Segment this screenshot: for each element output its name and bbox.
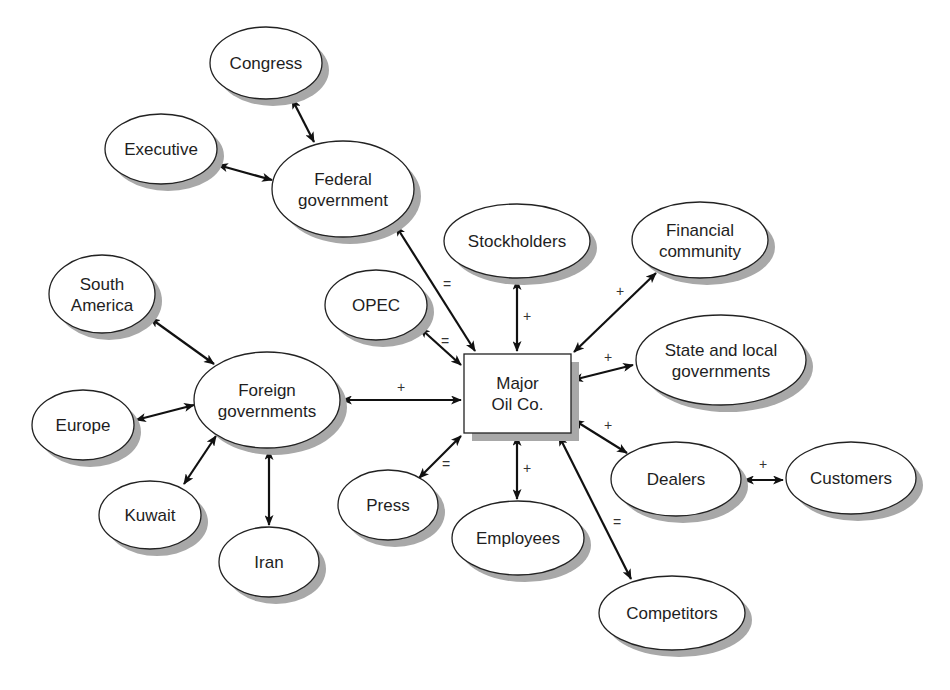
node-label: Major [496,374,539,393]
node-executive: Executive [105,114,217,184]
edge-label-major-competitors: = [613,514,621,530]
node-iran: Iran [219,527,319,597]
node-label: Executive [124,140,198,159]
edge-label-foreign-major: + [397,379,405,395]
ellipse-shape [49,255,155,333]
node-label: Foreign [238,381,296,400]
edge-label-financial-major: + [616,283,624,299]
ellipse-shape [194,352,340,448]
node-label: State and local [665,341,777,360]
node-press: Press [338,470,438,540]
node-dealers: Dealers [611,442,741,516]
node-label: government [298,191,388,210]
node-federal: Federalgovernment [272,141,414,237]
node-label: America [71,296,134,315]
edge-executive-federal [218,165,272,180]
node-label: Competitors [626,604,718,623]
node-label: Congress [230,54,303,73]
node-label: South [80,275,124,294]
node-label: OPEC [352,296,400,315]
edge-label-major-dealers: + [604,417,612,433]
rect-shape [464,354,571,433]
node-label: Press [366,496,409,515]
node-label: Iran [254,553,283,572]
edge-kuwait-foreign [184,436,216,484]
edge-label-federal-major: = [443,276,451,292]
edge-state-major [573,365,633,380]
node-congress: Congress [210,27,322,99]
node-opec: OPEC [325,270,427,340]
node-label: governments [218,402,316,421]
edge-southam-foreign [150,318,214,364]
node-customers: Customers [786,442,916,514]
stakeholder-diagram: CongressExecutiveFederalgovernmentStockh… [0,0,950,690]
ellipse-shape [272,141,414,237]
edge-label-dealers-customers: + [759,456,767,472]
ellipse-shape [636,315,806,405]
node-europe: Europe [32,390,134,460]
node-label: governments [672,362,770,381]
node-label: Dealers [647,470,706,489]
node-state: State and localgovernments [636,315,806,405]
edge-label-state-major: + [604,349,612,365]
node-label: Employees [476,529,560,548]
node-label: Oil Co. [492,395,544,414]
edge-label-major-employees: + [523,460,531,476]
node-label: Europe [56,416,111,435]
node-stockholders: Stockholders [444,204,590,278]
node-label: Federal [314,170,372,189]
edge-press-major [419,436,461,478]
ellipse-shape [632,202,768,278]
edge-label-opec-major: = [441,333,449,349]
edge-congress-federal [292,99,314,142]
edge-label-stockholders-major: + [523,308,531,324]
node-employees: Employees [452,501,584,575]
node-label: community [659,242,742,261]
node-competitors: Competitors [599,576,745,650]
node-foreign: Foreigngovernments [194,352,340,448]
node-major-oil-co: MajorOil Co. [464,354,571,433]
edge-europe-foreign [136,405,194,420]
edge-major-dealers [574,420,627,453]
node-label: Financial [666,221,734,240]
node-financial: Financialcommunity [632,202,768,278]
node-southam: SouthAmerica [49,255,155,333]
node-kuwait: Kuwait [99,481,201,549]
node-label: Stockholders [468,232,566,251]
node-label: Customers [810,469,892,488]
edge-label-press-major: = [442,456,450,472]
nodes-layer: CongressExecutiveFederalgovernmentStockh… [32,27,916,650]
node-label: Kuwait [124,506,175,525]
